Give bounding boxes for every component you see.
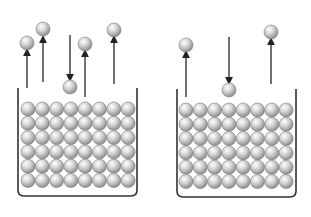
liquid-molecule bbox=[279, 146, 293, 160]
liquid-molecule bbox=[93, 174, 107, 188]
liquid-molecule bbox=[236, 117, 250, 131]
liquid-molecule bbox=[279, 103, 293, 117]
liquid-molecule bbox=[78, 116, 92, 130]
vapor-molecule bbox=[264, 25, 278, 39]
liquid-molecule bbox=[251, 132, 265, 146]
liquid-molecule bbox=[64, 174, 78, 188]
liquid-molecule bbox=[64, 145, 78, 159]
liquid-molecule bbox=[208, 146, 222, 160]
liquid-molecule bbox=[193, 132, 207, 146]
liquid-molecule bbox=[265, 103, 279, 117]
liquid-molecule bbox=[93, 102, 107, 116]
liquid-molecule bbox=[208, 103, 222, 117]
liquid-molecule bbox=[35, 159, 49, 173]
liquid-molecule bbox=[50, 145, 64, 159]
liquid-molecule bbox=[78, 145, 92, 159]
liquid-molecule bbox=[265, 175, 279, 189]
liquid-molecule bbox=[179, 117, 193, 131]
liquid-molecule bbox=[93, 145, 107, 159]
liquid-molecule bbox=[50, 174, 64, 188]
liquid-molecule bbox=[179, 103, 193, 117]
liquid-molecule bbox=[64, 159, 78, 173]
liquid-molecule bbox=[193, 175, 207, 189]
liquid-molecule bbox=[236, 103, 250, 117]
liquid-molecule bbox=[222, 146, 236, 160]
liquid-molecule bbox=[222, 175, 236, 189]
liquid-molecule bbox=[251, 175, 265, 189]
liquid-molecule bbox=[193, 160, 207, 174]
liquid-molecule bbox=[279, 175, 293, 189]
liquid-molecule bbox=[236, 160, 250, 174]
liquid-molecule bbox=[78, 174, 92, 188]
liquid-molecule bbox=[222, 117, 236, 131]
vapor-molecule bbox=[222, 83, 236, 97]
liquid-molecule bbox=[208, 175, 222, 189]
liquid-molecule bbox=[279, 132, 293, 146]
liquid-molecule bbox=[222, 160, 236, 174]
liquid-molecule bbox=[279, 117, 293, 131]
liquid-molecule bbox=[121, 131, 135, 145]
liquid-molecule bbox=[93, 159, 107, 173]
liquid-molecule bbox=[265, 146, 279, 160]
liquid-molecule bbox=[21, 145, 35, 159]
liquid-molecule bbox=[121, 102, 135, 116]
vapor-molecule bbox=[179, 38, 193, 52]
liquid-molecule bbox=[236, 132, 250, 146]
liquid-molecule bbox=[64, 116, 78, 130]
liquid-molecule bbox=[50, 102, 64, 116]
liquid-molecule bbox=[265, 160, 279, 174]
evaporation-diagram bbox=[0, 0, 311, 217]
vapor-molecule bbox=[107, 23, 121, 37]
diagram-canvas bbox=[0, 0, 311, 217]
liquid-molecule bbox=[107, 131, 121, 145]
vapor-molecule bbox=[63, 80, 77, 94]
liquid-molecule bbox=[21, 131, 35, 145]
liquid-molecule bbox=[208, 132, 222, 146]
liquid-molecule bbox=[193, 117, 207, 131]
liquid-molecule bbox=[279, 160, 293, 174]
liquid-molecule bbox=[78, 102, 92, 116]
liquid-molecule bbox=[35, 102, 49, 116]
liquid-molecule bbox=[21, 174, 35, 188]
liquid-molecule bbox=[193, 103, 207, 117]
liquid-molecule bbox=[222, 103, 236, 117]
liquid-molecule bbox=[107, 174, 121, 188]
liquid-molecule bbox=[251, 117, 265, 131]
container-right bbox=[177, 25, 296, 197]
liquid-molecule bbox=[265, 132, 279, 146]
liquid-molecule bbox=[21, 159, 35, 173]
liquid-molecule bbox=[236, 175, 250, 189]
liquid-molecule bbox=[179, 160, 193, 174]
liquid-molecule bbox=[21, 102, 35, 116]
liquid-molecule bbox=[64, 102, 78, 116]
liquid-molecule bbox=[251, 146, 265, 160]
liquid-molecule bbox=[193, 146, 207, 160]
vapor-molecule bbox=[36, 22, 50, 36]
liquid-molecule bbox=[251, 103, 265, 117]
liquid-molecule bbox=[265, 117, 279, 131]
liquid-molecule bbox=[78, 159, 92, 173]
liquid-molecule bbox=[50, 159, 64, 173]
liquid-molecule bbox=[107, 145, 121, 159]
liquid-molecule bbox=[107, 116, 121, 130]
liquid-molecule bbox=[93, 116, 107, 130]
liquid-molecule bbox=[35, 131, 49, 145]
liquid-molecule bbox=[121, 145, 135, 159]
vapor-molecule bbox=[20, 36, 34, 50]
liquid-molecule bbox=[179, 146, 193, 160]
liquid-molecule bbox=[121, 159, 135, 173]
liquid-molecule bbox=[179, 175, 193, 189]
liquid-molecule bbox=[107, 159, 121, 173]
liquid-molecule bbox=[50, 131, 64, 145]
liquid-molecule bbox=[93, 131, 107, 145]
liquid-molecule bbox=[179, 132, 193, 146]
liquid-molecule bbox=[222, 132, 236, 146]
liquid-molecule bbox=[121, 116, 135, 130]
vapor-molecule bbox=[78, 37, 92, 51]
liquid-molecule bbox=[35, 116, 49, 130]
liquid-molecule bbox=[50, 116, 64, 130]
liquid-molecule bbox=[251, 160, 265, 174]
liquid-molecule bbox=[208, 160, 222, 174]
liquid-molecule bbox=[78, 131, 92, 145]
liquid-molecule bbox=[236, 146, 250, 160]
